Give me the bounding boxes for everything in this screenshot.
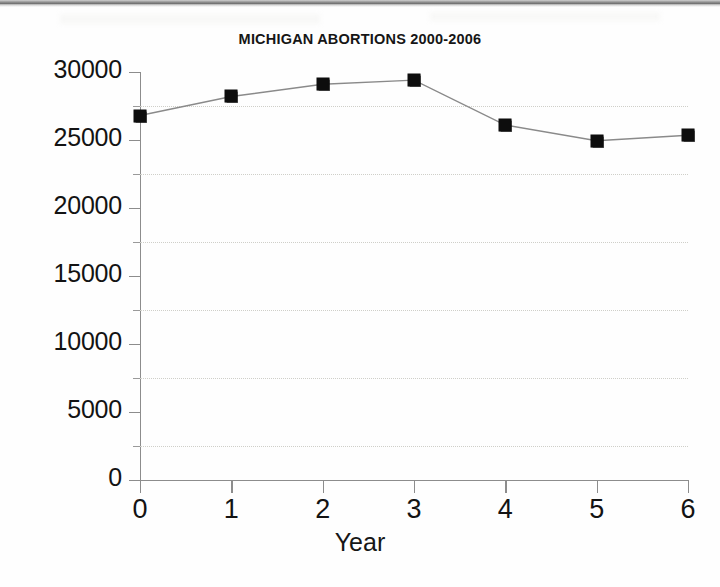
x-tick [688, 480, 689, 493]
data-point-marker [408, 74, 421, 87]
x-tick [140, 480, 141, 493]
y-axis-tick-label: 10000 [0, 327, 122, 356]
y-tick-minor [133, 446, 140, 447]
data-point-marker [134, 109, 147, 122]
x-axis-title: Year [0, 528, 720, 557]
y-tick-major [129, 72, 140, 73]
y-axis-tick-label: 5000 [0, 395, 122, 424]
chart-title: MICHIGAN ABORTIONS 2000-2006 [0, 31, 720, 47]
y-tick-major [129, 412, 140, 413]
x-axis-tick-label: 4 [498, 494, 513, 525]
x-axis-tick-label: 5 [589, 494, 604, 525]
y-tick-minor [133, 378, 140, 379]
x-tick [414, 480, 415, 493]
x-axis-tick-label: 2 [315, 494, 330, 525]
x-axis-tick-label: 6 [680, 494, 695, 525]
y-tick-major [129, 344, 140, 345]
y-axis-tick-label: 0 [0, 463, 122, 492]
y-axis-tick-label: 25000 [0, 123, 122, 152]
x-tick [505, 480, 506, 493]
y-tick-minor [133, 106, 140, 107]
x-axis-tick-label: 1 [224, 494, 239, 525]
y-tick-major [129, 276, 140, 277]
data-series-line [140, 72, 688, 480]
data-point-marker [590, 134, 603, 147]
x-axis-tick-label: 0 [132, 494, 147, 525]
scanned-page: MICHIGAN ABORTIONS 2000-2006 05000100001… [0, 0, 720, 587]
series-polyline [140, 80, 688, 141]
y-tick-minor [133, 310, 140, 311]
x-tick [597, 480, 598, 493]
x-axis-tick-label: 3 [406, 494, 421, 525]
y-tick-major [129, 140, 140, 141]
y-axis-tick-label: 15000 [0, 259, 122, 288]
line-chart: MICHIGAN ABORTIONS 2000-2006 05000100001… [0, 0, 720, 587]
data-point-marker [682, 129, 695, 142]
data-point-marker [316, 78, 329, 91]
y-tick-minor [133, 242, 140, 243]
y-tick-major [129, 480, 140, 481]
y-tick-minor [133, 174, 140, 175]
x-tick [231, 480, 232, 493]
y-axis-tick-label: 20000 [0, 191, 122, 220]
y-tick-major [129, 208, 140, 209]
data-point-marker [499, 119, 512, 132]
plot-area [140, 72, 688, 480]
data-point-marker [225, 90, 238, 103]
y-axis-tick-label: 30000 [0, 55, 122, 84]
x-tick [323, 480, 324, 493]
